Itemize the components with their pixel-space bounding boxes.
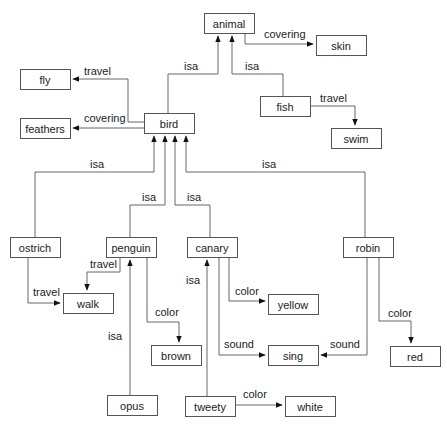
node-tweety: tweety — [186, 397, 236, 417]
edge-ostrich-travel-walk: travel — [28, 257, 60, 303]
node-label: ostrich — [19, 242, 51, 254]
edge-label: covering — [264, 28, 306, 40]
semantic-network-diagram: isacoveringisatraveltravelcoveringisaisa… — [0, 0, 447, 428]
edge-label: travel — [320, 92, 347, 104]
node-label: white — [296, 401, 323, 413]
edge-tweety-isa-canary: isa — [186, 260, 207, 396]
node-label: penguin — [111, 242, 150, 254]
node-fly: fly — [21, 70, 71, 90]
node-label: yellow — [278, 299, 309, 311]
node-skin: skin — [317, 36, 367, 56]
edge-bird-covering-feathers: covering — [73, 112, 144, 128]
edge-label: color — [155, 306, 179, 318]
edge-label: isa — [184, 60, 199, 72]
node-robin: robin — [344, 238, 394, 258]
node-ostrich: ostrich — [11, 238, 61, 258]
node-yellow: yellow — [269, 295, 319, 315]
edge-bird-isa-animal: isa — [168, 36, 218, 113]
edge-opus-isa-penguin: isa — [108, 260, 130, 395]
node-label: fish — [276, 101, 293, 113]
node-walk: walk — [64, 294, 114, 314]
node-canary: canary — [188, 238, 238, 258]
edge-label: sound — [224, 338, 254, 350]
edge-penguin-travel-walk: travel — [87, 257, 120, 290]
edge-robin-isa-bird: isa — [186, 136, 365, 237]
edge-label: isa — [262, 158, 277, 170]
arrow-icon — [186, 136, 365, 237]
edge-tweety-color-white: color — [235, 388, 282, 405]
node-opus: opus — [108, 396, 158, 416]
arrow-icon — [35, 136, 154, 237]
edge-animal-covering-skin: covering — [245, 28, 313, 44]
node-label: robin — [356, 242, 380, 254]
node-bird: bird — [145, 114, 195, 134]
node-white: white — [286, 397, 336, 417]
edge-label: isa — [187, 191, 202, 203]
edge-label: color — [235, 285, 259, 297]
arrow-icon — [175, 136, 210, 237]
node-label: bird — [160, 118, 178, 130]
edge-label: isa — [186, 274, 201, 286]
arrow-icon — [147, 257, 179, 342]
edge-canary-sound-sing: sound — [219, 257, 265, 355]
edge-label: isa — [90, 158, 105, 170]
edge-label: travel — [84, 65, 111, 77]
node-label: swim — [343, 133, 368, 145]
edge-canary-isa-bird: isa — [175, 136, 210, 237]
node-label: feathers — [25, 123, 65, 135]
edge-canary-color-yellow: color — [229, 257, 265, 301]
nodes-layer: animalskinflyfeathersbirdfishswimostrich… — [11, 14, 441, 417]
edge-label: travel — [90, 258, 117, 270]
edge-fish-isa-animal: isa — [232, 36, 283, 96]
node-label: sing — [283, 350, 303, 362]
node-label: fly — [40, 74, 52, 86]
node-label: red — [407, 351, 423, 363]
edge-label: color — [243, 388, 267, 400]
node-red: red — [391, 347, 441, 367]
edge-label: isa — [142, 191, 157, 203]
node-label: animal — [213, 18, 245, 30]
edge-label: isa — [108, 330, 123, 342]
node-animal: animal — [205, 14, 255, 34]
arrow-icon — [168, 36, 218, 113]
node-label: brown — [161, 350, 191, 362]
edge-robin-color-red: color — [379, 257, 412, 343]
node-penguin: penguin — [107, 238, 157, 258]
edge-label: isa — [245, 60, 260, 72]
edge-ostrich-isa-bird: isa — [35, 136, 154, 237]
arrow-icon — [130, 136, 165, 237]
edge-fish-travel-swim: travel — [310, 92, 355, 125]
node-swim: swim — [332, 129, 382, 149]
edge-penguin-color-brown: color — [147, 257, 179, 342]
edge-label: travel — [33, 286, 60, 298]
node-label: walk — [76, 298, 100, 310]
edge-label: covering — [84, 112, 126, 124]
edge-label: sound — [330, 338, 360, 350]
node-label: canary — [195, 242, 229, 254]
arrow-icon — [379, 257, 411, 343]
arrow-icon — [310, 106, 355, 125]
edge-label: color — [388, 307, 412, 319]
edges-layer: isacoveringisatraveltravelcoveringisaisa… — [28, 28, 412, 405]
edge-robin-sound-sing: sound — [321, 257, 367, 355]
node-feathers: feathers — [21, 119, 71, 139]
node-fish: fish — [261, 97, 311, 117]
node-sing: sing — [269, 346, 319, 366]
edge-penguin-isa-bird: isa — [130, 136, 165, 237]
node-label: opus — [120, 400, 144, 412]
node-brown: brown — [152, 346, 202, 366]
node-label: tweety — [194, 401, 226, 413]
node-label: skin — [331, 40, 351, 52]
